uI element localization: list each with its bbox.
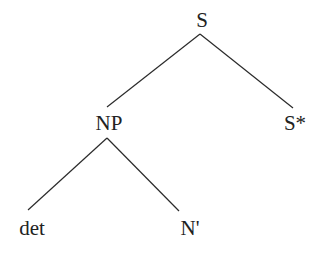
node-root-s: S [196,8,208,32]
edge-s-np [107,34,200,107]
node-det: det [19,216,45,240]
node-s-foot: S* [284,111,306,135]
edge-np-det [28,138,107,210]
edge-s-sfoot [200,34,293,108]
syntax-tree: S NP S* det N' [0,0,325,253]
edge-np-nbar [107,138,179,211]
node-np: NP [96,111,123,135]
node-n-bar: N' [181,216,200,240]
